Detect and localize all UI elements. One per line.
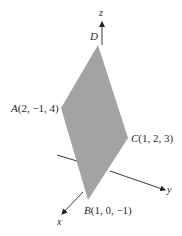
x-axis [62,192,83,214]
axis-line-back [57,155,77,161]
point-label-a: A(2, −1, 4) [11,102,59,114]
x-axis-label: x [57,217,61,227]
point-name: D [90,30,98,42]
y-axis-label: y [167,185,171,195]
z-axis-label: z [99,8,103,18]
point-name: A [11,102,18,114]
point-coords: (1, 0, −1) [91,204,132,216]
point-name: B [84,204,91,216]
point-coords: (2, −1, 4) [18,102,59,114]
parallelogram-face [61,45,128,200]
point-label-c: C(1, 2, 3) [131,132,173,144]
point-coords: (1, 2, 3) [138,132,173,144]
y-axis [110,171,165,190]
point-label-d: D [90,30,98,42]
point-label-b: B(1, 0, −1) [84,204,132,216]
